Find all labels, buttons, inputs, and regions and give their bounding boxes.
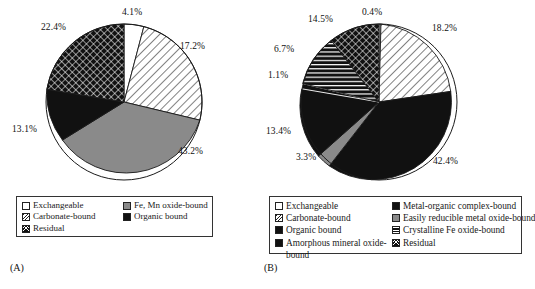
swatch-solid-black-icon [275, 226, 283, 234]
panel-b-caption: (B) [264, 262, 277, 273]
swatch-cross-hatch-icon [392, 239, 400, 247]
legend-a-item-carbonate[interactable]: Carbonate-bound [22, 211, 119, 222]
pie-a-label-carbonate: 17.2% [180, 41, 205, 51]
swatch-horizontal-lines-icon [392, 226, 400, 234]
pie-b-label-metal-organic-complex: 42.4% [433, 156, 458, 166]
swatch-diagonal-hatch-icon [275, 214, 283, 222]
legend-b-item-carbonate[interactable]: Carbonate-bound [275, 212, 388, 224]
swatch-diagonal-hatch-icon [22, 213, 30, 221]
legend-b-label-metal-organic-complex: Metal-organic complex-bound [403, 200, 516, 212]
legend-a-grid: Exchangeable Fe, Mn oxide-bound Carbonat… [22, 200, 207, 234]
pie-b-label-easily-reducible: 3.3% [296, 152, 316, 162]
pie-chart-b: 0.4% 18.2% 42.4% 3.3% 13.4% 1.1% 6.7% 14… [254, 0, 507, 190]
pie-a-label-exchangeable: 4.1% [122, 7, 142, 17]
legend-b-item-organic[interactable]: Organic bound [275, 224, 388, 236]
swatch-solid-black-icon [392, 202, 400, 210]
legend-b-item-residual[interactable]: Residual [392, 237, 535, 261]
swatch-cross-hatch-icon [22, 225, 30, 233]
legend-b-label-amorphous-mineral-oxide: Amorphous mineral oxide-bound [286, 237, 388, 261]
legend-a-label-residual: Residual [33, 223, 65, 234]
pie-b-label-exchangeable: 0.4% [362, 7, 382, 17]
pie-b-slice-carbonate [379, 24, 451, 102]
legend-b-item-amorphous-mineral-oxide[interactable]: Amorphous mineral oxide-bound [275, 237, 388, 261]
swatch-solid-gray-icon [123, 202, 131, 210]
pie-a-slice-residual [47, 24, 124, 102]
pie-b-label-amorphous: 1.1% [268, 70, 288, 80]
swatch-solid-black-icon [123, 213, 131, 221]
pie-a-label-residual: 22.4% [41, 22, 66, 32]
legend-b-item-exchangeable[interactable]: Exchangeable [275, 200, 388, 212]
legend-b-item-easily-reducible[interactable]: Easily reducible metal oxide-bound [392, 212, 535, 224]
pie-b-label-organic: 13.4% [266, 126, 291, 136]
legend-a-item-organic[interactable]: Organic bound [123, 211, 208, 222]
panel-b: 0.4% 18.2% 42.4% 3.3% 13.4% 1.1% 6.7% 14… [254, 0, 507, 289]
pie-a-label-femn-oxide: 43.2% [178, 146, 203, 156]
legend-a-item-residual[interactable]: Residual [22, 223, 119, 234]
legend-a-label-organic: Organic bound [134, 211, 188, 222]
legend-b-label-carbonate: Carbonate-bound [286, 212, 351, 224]
swatch-solid-black-icon [275, 239, 283, 247]
pie-b-label-residual: 14.5% [308, 14, 333, 24]
legend-b-label-easily-reducible: Easily reducible metal oxide-bound [403, 212, 535, 224]
pie-b-label-carbonate: 18.2% [432, 23, 457, 33]
panel-a: 4.1% 17.2% 43.2% 13.1% 22.4% Exchangeabl… [0, 0, 253, 289]
legend-b: Exchangeable Metal-organic complex-bound… [269, 196, 522, 254]
legend-b-label-exchangeable: Exchangeable [286, 200, 338, 212]
legend-b-grid: Exchangeable Metal-organic complex-bound… [275, 200, 516, 261]
legend-a-spacer [123, 223, 208, 234]
swatch-solid-white-icon [275, 202, 283, 210]
legend-b-label-organic: Organic bound [286, 224, 341, 236]
pie-chart-a: 4.1% 17.2% 43.2% 13.1% 22.4% [0, 0, 253, 190]
legend-a: Exchangeable Fe, Mn oxide-bound Carbonat… [16, 196, 213, 237]
legend-b-item-crystalline-fe-oxide[interactable]: Crystalline Fe oxide-bound [392, 224, 535, 236]
panel-a-caption: (A) [10, 262, 24, 273]
legend-b-label-crystalline-fe-oxide: Crystalline Fe oxide-bound [403, 224, 505, 236]
swatch-solid-gray-icon [392, 214, 400, 222]
legend-a-label-carbonate: Carbonate-bound [33, 211, 95, 222]
legend-a-label-exchangeable: Exchangeable [33, 200, 83, 211]
pie-a-label-organic: 13.1% [12, 124, 37, 134]
legend-a-label-femn-oxide: Fe, Mn oxide-bound [134, 200, 208, 211]
legend-a-item-exchangeable[interactable]: Exchangeable [22, 200, 119, 211]
legend-a-item-femn-oxide[interactable]: Fe, Mn oxide-bound [123, 200, 208, 211]
legend-b-item-metal-organic-complex[interactable]: Metal-organic complex-bound [392, 200, 535, 212]
legend-b-label-residual: Residual [403, 237, 436, 249]
pie-b-label-crystalline-fe: 6.7% [274, 44, 294, 54]
swatch-solid-white-icon [22, 202, 30, 210]
